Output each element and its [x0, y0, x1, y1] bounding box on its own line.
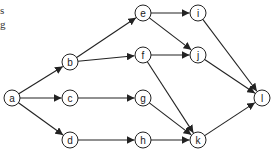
- directed-graph: abcdefghijkl: [0, 0, 273, 150]
- node-label: i: [197, 8, 199, 19]
- node-h: h: [135, 132, 151, 148]
- edge-a-d: [18, 103, 63, 135]
- node-f: f: [135, 47, 151, 63]
- edge-e-j: [149, 18, 191, 50]
- node-g: g: [135, 90, 151, 106]
- node-e: e: [135, 5, 151, 21]
- edge-b-e: [77, 18, 136, 58]
- node-k: k: [190, 132, 206, 148]
- edge-j-l: [205, 59, 255, 93]
- node-label: e: [140, 8, 146, 19]
- edge-f-k: [147, 62, 193, 133]
- node-label: f: [142, 50, 145, 61]
- node-label: a: [9, 93, 15, 104]
- node-label: b: [67, 57, 73, 68]
- node-i: i: [190, 5, 206, 21]
- node-c: c: [62, 90, 78, 106]
- node-label: c: [68, 93, 73, 104]
- edges-layer: [18, 13, 256, 140]
- node-b: b: [62, 54, 78, 70]
- edge-i-l: [203, 19, 257, 91]
- node-label: g: [140, 93, 146, 104]
- node-j: j: [190, 47, 206, 63]
- edge-k-l: [205, 103, 255, 136]
- node-label: j: [196, 50, 199, 61]
- node-label: l: [261, 93, 263, 104]
- node-label: d: [67, 135, 73, 146]
- node-l: l: [254, 90, 270, 106]
- edge-b-f: [78, 56, 135, 61]
- edge-a-b: [19, 66, 63, 93]
- node-label: h: [140, 135, 146, 146]
- node-a: a: [4, 90, 20, 106]
- node-d: d: [62, 132, 78, 148]
